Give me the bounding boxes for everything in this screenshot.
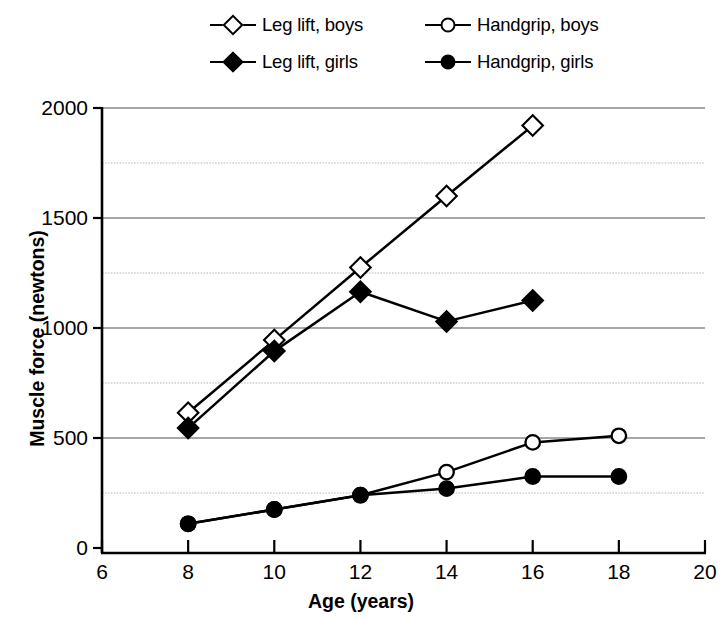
- plot-canvas: [0, 0, 722, 619]
- series-handgrip-boys: [181, 429, 626, 532]
- chart-figure: Leg lift, boys Handgrip, boys Leg lift, …: [0, 0, 722, 619]
- data-point-marker: [439, 465, 454, 480]
- data-point-marker: [439, 481, 454, 496]
- x-axis-tick-label: 10: [263, 560, 286, 584]
- series-handgrip-girls: [181, 469, 626, 531]
- axis-lines: [101, 107, 706, 553]
- x-axis-tick-label: 20: [693, 560, 716, 584]
- data-point-marker: [181, 517, 196, 532]
- y-axis-tick-label: 500: [53, 426, 88, 450]
- y-axis-tick-label: 2000: [41, 96, 88, 120]
- data-point-marker: [350, 281, 371, 302]
- series-leg-lift-boys: [178, 115, 543, 423]
- y-axis-tick-label: 0: [76, 536, 88, 560]
- axis-ticks: [93, 108, 705, 553]
- x-axis-title: Age (years): [0, 590, 722, 613]
- x-axis-tick-label: 6: [96, 560, 108, 584]
- series-leg-lift-girls: [178, 281, 543, 438]
- plot-area: 0500100015002000 68101214161820 Muscle f…: [0, 0, 722, 619]
- data-point-marker: [525, 435, 540, 450]
- series-line: [188, 292, 533, 428]
- x-axis-tick-label: 12: [349, 560, 372, 584]
- x-axis-tick-label: 18: [607, 560, 630, 584]
- data-series: [178, 115, 626, 531]
- data-point-marker: [267, 502, 282, 517]
- data-point-marker: [525, 469, 540, 484]
- data-point-marker: [612, 429, 627, 444]
- y-axis-title: Muscle force (newtons): [26, 129, 49, 549]
- data-point-marker: [522, 290, 543, 311]
- data-point-marker: [612, 469, 627, 484]
- x-axis-tick-labels: 68101214161820: [0, 560, 722, 590]
- x-axis-tick-label: 14: [435, 560, 458, 584]
- data-point-marker: [353, 488, 368, 503]
- x-axis-tick-label: 16: [521, 560, 544, 584]
- x-axis-tick-label: 8: [182, 560, 194, 584]
- series-line: [188, 436, 619, 524]
